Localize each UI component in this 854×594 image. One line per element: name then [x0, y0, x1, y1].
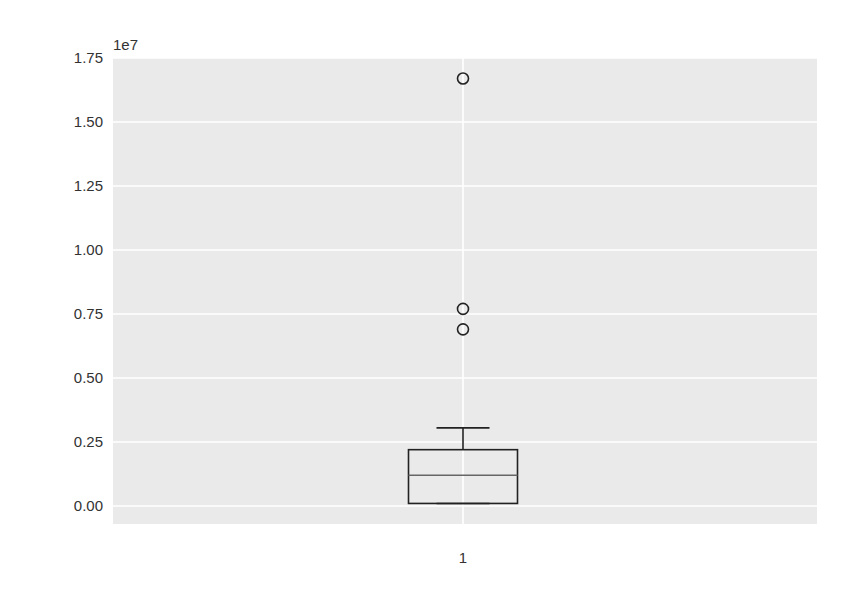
y-tick-label: 0.00 — [74, 497, 103, 514]
boxplot-chart: 0.000.250.500.751.001.251.501.75 1e7 1 — [0, 0, 854, 594]
y-tick-label: 1.50 — [74, 113, 103, 130]
x-axis-ticks: 1 — [459, 549, 467, 566]
x-tick-label: 1 — [459, 549, 467, 566]
y-tick-label: 0.50 — [74, 369, 103, 386]
plot-area — [113, 58, 817, 524]
y-offset-label: 1e7 — [113, 36, 138, 53]
y-tick-label: 0.25 — [74, 433, 103, 450]
y-axis-ticks: 0.000.250.500.751.001.251.501.75 — [74, 49, 103, 514]
y-tick-label: 1.75 — [74, 49, 103, 66]
y-tick-label: 1.25 — [74, 177, 103, 194]
y-tick-label: 1.00 — [74, 241, 103, 258]
y-tick-label: 0.75 — [74, 305, 103, 322]
